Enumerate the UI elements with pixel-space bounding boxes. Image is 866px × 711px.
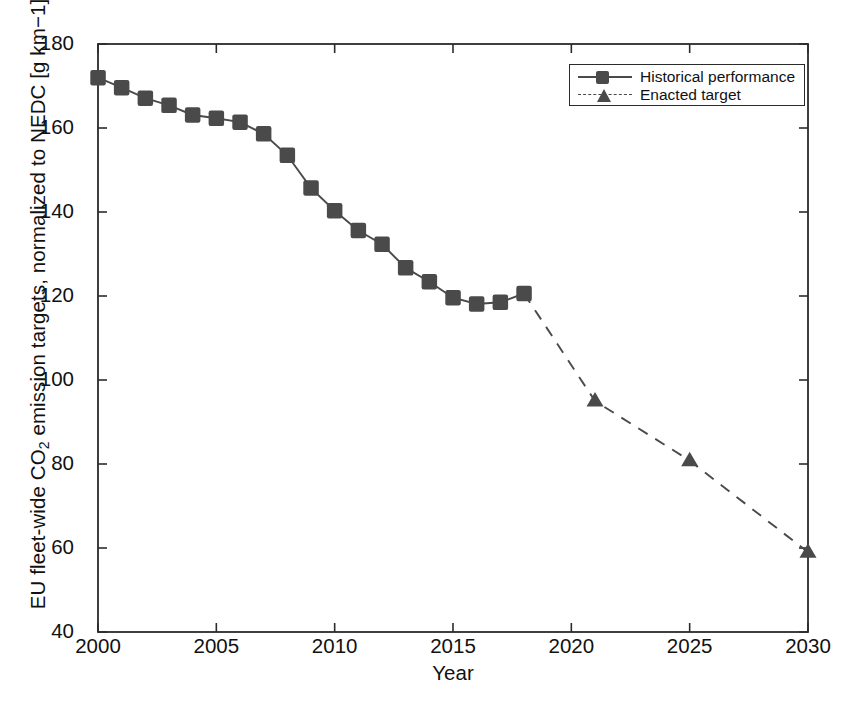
data-point-square [422, 274, 438, 290]
y-tick-label: 160 [4, 117, 74, 138]
x-tick-label: 2025 [630, 636, 750, 657]
legend-swatch-triangle-icon [576, 86, 634, 104]
data-point-triangle [681, 452, 698, 467]
chart-legend: Historical performance Enacted target [569, 64, 805, 106]
data-point-square [516, 286, 532, 302]
y-tick-label: 120 [4, 285, 74, 306]
y-axis-title: EU fleet-wide CO2 emission targets, norm… [26, 0, 50, 614]
legend-item-target: Enacted target [576, 86, 798, 104]
data-point-square [445, 290, 461, 306]
x-tick-label: 2015 [393, 636, 513, 657]
data-point-square [280, 148, 296, 164]
y-tick-label: 60 [4, 537, 74, 558]
legend-item-historical: Historical performance [576, 68, 798, 86]
data-point-square [138, 90, 154, 106]
data-point-triangle [800, 543, 817, 558]
legend-swatch-square-icon [576, 68, 634, 86]
data-point-square [256, 126, 272, 142]
y-tick-label: 80 [4, 453, 74, 474]
data-point-square [209, 111, 225, 127]
y-tick-label: 180 [4, 33, 74, 54]
data-point-triangle [587, 392, 604, 407]
data-point-square [185, 107, 201, 123]
x-tick-label: 2000 [38, 636, 158, 657]
plot-area [0, 0, 866, 711]
x-axis-title: Year [98, 661, 808, 685]
x-tick-label: 2005 [156, 636, 276, 657]
plot-frame [98, 44, 808, 632]
data-point-square [114, 80, 129, 96]
data-point-square [374, 237, 390, 253]
data-point-square [303, 180, 319, 196]
chart-figure: EU fleet-wide CO2 emission targets, norm… [0, 0, 866, 711]
data-point-square [493, 295, 509, 311]
y-tick-label: 140 [4, 201, 74, 222]
series-line-2 [524, 294, 808, 553]
y-axis-title-subscript: 2 [36, 441, 52, 449]
x-tick-label: 2030 [748, 636, 866, 657]
legend-label-historical: Historical performance [634, 68, 795, 86]
data-point-square [398, 260, 414, 276]
y-tick-label: 100 [4, 369, 74, 390]
data-point-square [327, 203, 343, 219]
data-point-square [232, 114, 248, 129]
data-point-square [351, 223, 367, 239]
legend-label-target: Enacted target [634, 86, 741, 104]
x-tick-label: 2010 [275, 636, 395, 657]
data-point-square [161, 98, 177, 114]
data-point-square [90, 70, 106, 86]
data-point-square [469, 296, 485, 312]
x-tick-label: 2020 [511, 636, 631, 657]
